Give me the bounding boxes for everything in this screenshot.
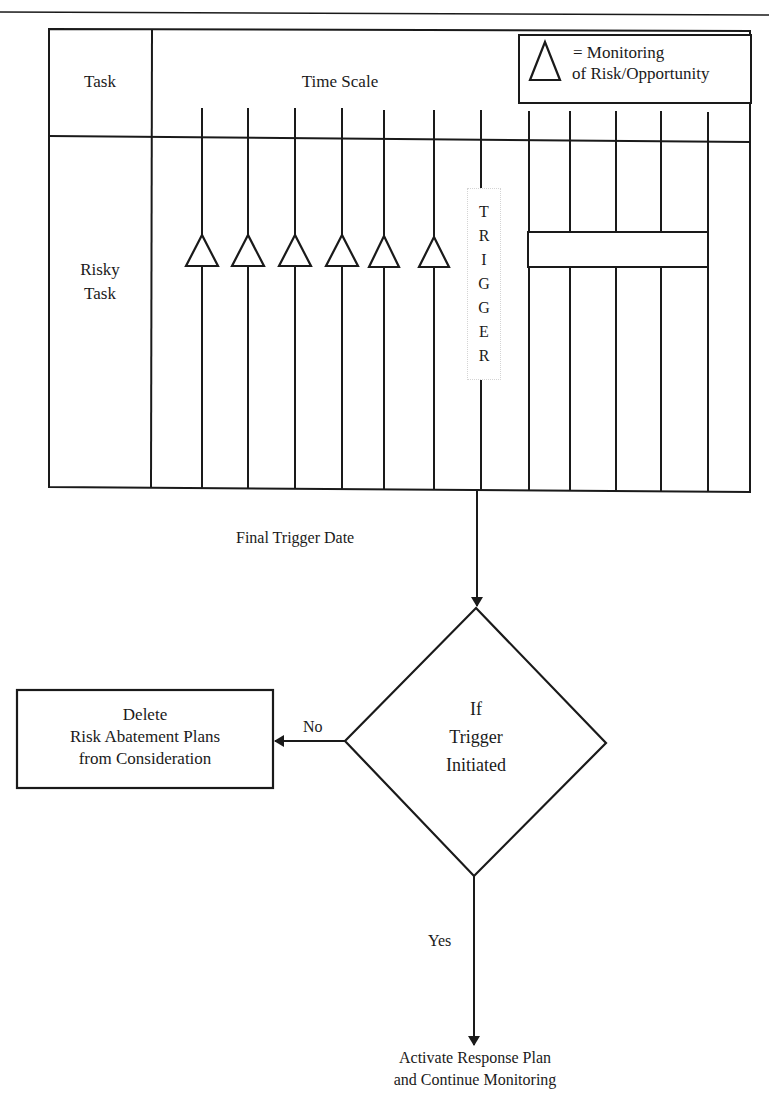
delete-line3: from Consideration <box>17 748 273 770</box>
monitoring-triangles <box>186 235 449 267</box>
triangle-icon <box>279 235 311 266</box>
decision-line3: Initiated <box>406 751 546 779</box>
activate-line1: Activate Response Plan <box>355 1047 595 1069</box>
triangle-icon <box>369 236 399 267</box>
diagram-canvas <box>0 0 769 1100</box>
activate-response-text: Activate Response Plan and Continue Moni… <box>355 1047 595 1091</box>
page-header-rule <box>0 12 769 15</box>
legend-text: = Monitoring of Risk/Opportunity <box>573 42 709 84</box>
task-column-divider <box>151 29 152 487</box>
time-scale-header-label: Time Scale <box>270 71 410 92</box>
triangle-icon <box>326 235 358 266</box>
trigger-letter: R <box>479 224 490 248</box>
risky-task-line2: Task <box>62 282 138 306</box>
legend-line2: of Risk/Opportunity <box>572 63 709 84</box>
trigger-label: T R I G G E R <box>467 188 501 380</box>
triangle-icon <box>232 235 264 266</box>
delete-plans-text: Delete Risk Abatement Plans from Conside… <box>17 704 273 770</box>
response-bar <box>528 232 708 267</box>
legend-line1: = Monitoring <box>573 42 709 63</box>
triangle-icon <box>419 237 449 267</box>
no-branch-label: No <box>303 716 323 737</box>
header-divider <box>49 136 750 142</box>
delete-line1: Delete <box>17 704 273 726</box>
decision-text: If Trigger Initiated <box>406 695 546 779</box>
task-header-label: Task <box>62 71 138 92</box>
trigger-letter: I <box>481 248 486 272</box>
delete-line2: Risk Abatement Plans <box>17 726 273 748</box>
trigger-letter: T <box>479 200 489 224</box>
timeline-grid <box>49 29 751 492</box>
decision-line1: If <box>406 695 546 723</box>
activate-line2: and Continue Monitoring <box>355 1069 595 1091</box>
risky-task-line1: Risky <box>62 258 138 282</box>
trigger-letter: R <box>479 344 490 368</box>
decision-line2: Trigger <box>406 723 546 751</box>
triangle-icon <box>186 235 218 266</box>
trigger-letter: G <box>478 272 490 296</box>
risky-task-label: Risky Task <box>62 258 138 306</box>
final-trigger-date-label: Final Trigger Date <box>236 527 354 548</box>
trigger-letter: G <box>478 296 490 320</box>
trigger-letter: E <box>479 320 489 344</box>
yes-branch-label: Yes <box>428 930 451 951</box>
